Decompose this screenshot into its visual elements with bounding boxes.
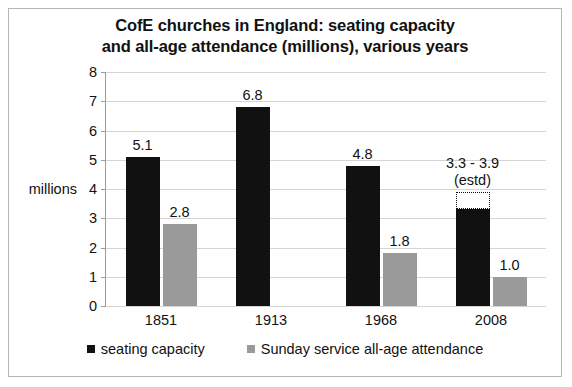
data-label-capacity-2008: 3.3 - 3.9(estd) <box>434 155 512 189</box>
y-tick-mark <box>101 277 106 278</box>
data-label-value: 4.8 <box>324 146 402 162</box>
bar-capacity-1913[interactable] <box>236 107 270 306</box>
y-axis-tick-label: 6 <box>89 124 97 138</box>
data-label-attendance-1968: 1.8 <box>361 233 439 249</box>
data-label-note: (estd) <box>434 172 512 189</box>
bar-attendance-1968[interactable] <box>383 253 417 306</box>
bar-attendance-1851[interactable] <box>163 224 197 306</box>
data-label-value: 3.3 - 3.9 <box>434 155 512 172</box>
legend-swatch-icon <box>87 345 95 353</box>
y-axis-tick-label: 8 <box>89 65 97 79</box>
y-axis-tick-label: 5 <box>89 153 97 167</box>
y-axis-tick-label: 4 <box>89 182 97 196</box>
x-axis-label-1913: 1913 <box>216 313 326 328</box>
chart-frame: CofE churches in England: seating capaci… <box>8 8 562 377</box>
y-tick-mark <box>101 131 106 132</box>
gridline <box>106 306 546 307</box>
x-axis-label-2008: 2008 <box>436 313 546 328</box>
legend-swatch-icon <box>247 345 255 353</box>
x-axis-label-1851: 1851 <box>106 313 216 328</box>
legend-label: Sunday service all-age attendance <box>261 341 483 357</box>
chart-title: CofE churches in England: seating capaci… <box>9 15 561 57</box>
gridline <box>106 101 546 102</box>
data-label-value: 2.8 <box>141 204 219 220</box>
bar-capacity-1851[interactable] <box>126 157 160 306</box>
y-tick-mark <box>101 218 106 219</box>
data-label-value: 5.1 <box>104 137 182 153</box>
estimate-range-box-2008 <box>456 192 490 210</box>
legend-item-attendance[interactable]: Sunday service all-age attendance <box>247 341 483 357</box>
chart-title-line-1: CofE churches in England: seating capaci… <box>9 15 561 36</box>
bar-attendance-2008[interactable] <box>493 277 527 306</box>
chart-title-line-2: and all-age attendance (millions), vario… <box>9 36 561 57</box>
y-tick-mark <box>101 160 106 161</box>
chart-legend: seating capacitySunday service all-age a… <box>9 341 561 357</box>
y-axis-tick-label: 0 <box>89 299 97 313</box>
data-label-value: 1.0 <box>471 257 549 273</box>
data-label-value: 6.8 <box>214 87 292 103</box>
y-axis-title: millions <box>29 182 77 196</box>
y-tick-mark <box>101 189 106 190</box>
y-axis-tick-label: 7 <box>89 94 97 108</box>
data-label-attendance-2008: 1.0 <box>471 257 549 273</box>
plot-area: 012345678 millions 5.12.86.84.81.83.3 - … <box>106 72 546 306</box>
y-axis-tick-label: 3 <box>89 211 97 225</box>
y-tick-mark <box>101 248 106 249</box>
y-tick-mark <box>101 101 106 102</box>
y-tick-mark <box>101 306 106 307</box>
data-label-capacity-1968: 4.8 <box>324 146 402 162</box>
y-axis-tick-label: 2 <box>89 241 97 255</box>
gridline <box>106 189 546 190</box>
y-tick-mark <box>101 72 106 73</box>
legend-label: seating capacity <box>101 341 205 357</box>
data-label-value: 1.8 <box>361 233 439 249</box>
data-label-attendance-1851: 2.8 <box>141 204 219 220</box>
gridline <box>106 72 546 73</box>
legend-item-capacity[interactable]: seating capacity <box>87 341 205 357</box>
x-axis-label-1968: 1968 <box>326 313 436 328</box>
data-label-capacity-1913: 6.8 <box>214 87 292 103</box>
gridline <box>106 131 546 132</box>
data-label-capacity-1851: 5.1 <box>104 137 182 153</box>
y-axis-tick-label: 1 <box>89 270 97 284</box>
